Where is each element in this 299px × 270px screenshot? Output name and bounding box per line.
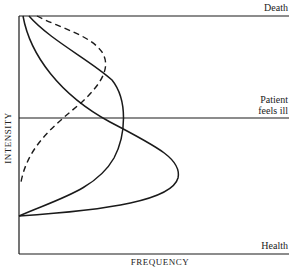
label-health: Health	[261, 240, 288, 251]
label-patient-line2: feels ill	[258, 105, 288, 116]
x-axis-label: FREQUENCY	[120, 257, 200, 267]
y-axis-label: INTENSITY	[3, 103, 13, 173]
diagram-canvas	[0, 0, 299, 270]
curve-dashed	[21, 16, 106, 182]
label-death: Death	[264, 2, 288, 13]
curve-wide-solid	[19, 16, 178, 216]
curve-mid-solid	[19, 16, 124, 216]
label-patient-line1: Patient	[258, 94, 288, 105]
label-patient-feels-ill: Patient feels ill	[258, 94, 288, 116]
